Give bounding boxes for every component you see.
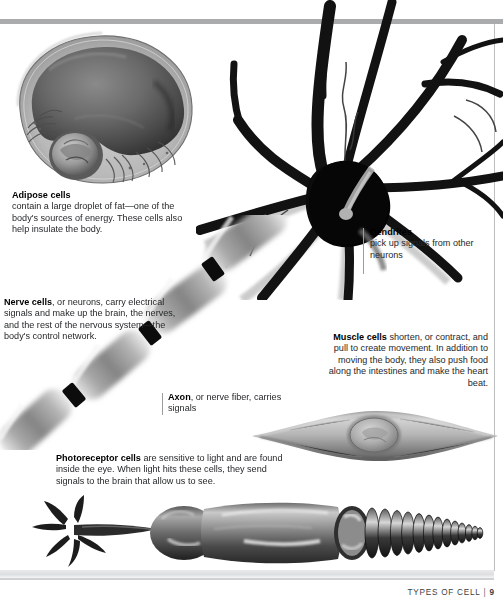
page-bottom-band — [0, 570, 494, 578]
caption-muscle-heading: Muscle cells — [333, 332, 387, 342]
caption-nerve-heading: Nerve cells — [4, 297, 52, 307]
caption-axon: Axon, or nerve fiber, carries signals — [168, 392, 298, 415]
caption-dendrites: Dendritespick up signals from other neur… — [370, 227, 490, 261]
adipose-cell-illustration — [4, 24, 200, 189]
caption-adipose-cells: Adipose cells contain a large droplet of… — [12, 190, 187, 236]
caption-photoreceptor-heading: Photoreceptor cells — [56, 453, 141, 463]
photoreceptor-rod-cell-illustration — [8, 495, 488, 580]
caption-muscle-cells: Muscle cells shorten, or contract, and p… — [320, 332, 488, 389]
caption-photoreceptor-cells: Photoreceptor cells are sensitive to lig… — [56, 453, 284, 487]
book-page: Adipose cells contain a large droplet of… — [0, 0, 503, 608]
caption-dendrites-heading: Dendrites — [370, 227, 490, 238]
footer-section-title: TYPES OF CELL — [408, 588, 481, 597]
caption-adipose-body: contain a large droplet of fat—one of th… — [12, 201, 182, 234]
caption-nerve-cells: Nerve cells, or neurons, carry electrica… — [4, 297, 184, 343]
caption-dendrites-body: pick up signals from other neurons — [370, 238, 474, 259]
caption-adipose-heading: Adipose cells — [12, 190, 187, 201]
page-footer: TYPES OF CELL|9 — [408, 588, 494, 597]
footer-page-number: 9 — [489, 588, 494, 597]
caption-axon-heading: Axon — [168, 392, 191, 402]
